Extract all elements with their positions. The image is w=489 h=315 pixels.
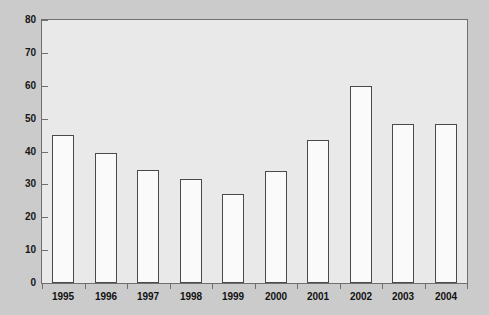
x-axis-tick-label: 2004: [424, 291, 468, 303]
x-axis-tick-mark: [297, 284, 298, 289]
y-axis-tick-label: 80: [0, 14, 41, 26]
bar: [435, 124, 457, 283]
y-axis-tick-label: 30: [0, 178, 41, 190]
x-axis-tick-label: 2003: [381, 291, 425, 303]
y-axis-tick-label: 10: [0, 244, 41, 256]
x-axis-tick-mark: [255, 284, 256, 289]
x-axis-tick-mark: [425, 284, 426, 289]
bars-layer: [42, 20, 467, 283]
bar: [392, 124, 414, 283]
y-axis-tick-label: 50: [0, 113, 41, 125]
x-axis-tick-mark: [340, 284, 341, 289]
x-axis-tick-mark: [170, 284, 171, 289]
x-axis-tick-mark: [127, 284, 128, 289]
x-axis-tick-mark: [42, 284, 43, 289]
x-axis-tick-label: 1999: [211, 291, 255, 303]
bar: [350, 86, 372, 283]
bar: [265, 171, 287, 283]
y-axis-tick-label: 20: [0, 211, 41, 223]
x-axis-tick-mark: [382, 284, 383, 289]
x-axis-tick-label: 2000: [254, 291, 298, 303]
x-axis-tick-mark: [212, 284, 213, 289]
x-axis-tick-label: 1996: [84, 291, 128, 303]
bar-chart: 01020304050607080 1995199619971998199920…: [0, 0, 489, 315]
x-axis-tick-label: 2002: [339, 291, 383, 303]
bar: [52, 135, 74, 283]
x-axis-tick-mark: [85, 284, 86, 289]
bar: [307, 140, 329, 283]
x-axis-tick-mark: [467, 284, 468, 289]
y-axis-tick-label: 60: [0, 80, 41, 92]
x-axis-tick-label: 1997: [126, 291, 170, 303]
y-axis: 01020304050607080: [0, 20, 41, 283]
bar: [180, 179, 202, 283]
y-axis-tick-label: 0: [0, 277, 41, 289]
bar: [95, 153, 117, 283]
x-axis-tick-label: 2001: [296, 291, 340, 303]
x-axis-tick-label: 1995: [41, 291, 85, 303]
bar: [137, 170, 159, 283]
y-axis-tick-label: 40: [0, 146, 41, 158]
y-axis-tick-label: 70: [0, 47, 41, 59]
x-axis-tick-label: 1998: [169, 291, 213, 303]
bar: [222, 194, 244, 283]
